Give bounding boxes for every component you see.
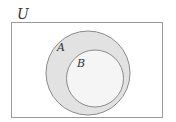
set-a-label: A [56, 41, 65, 54]
set-b-circle [67, 50, 124, 107]
venn-diagram: U A B [0, 0, 176, 122]
universe-label: U [17, 6, 30, 22]
set-b-label: B [76, 57, 85, 70]
